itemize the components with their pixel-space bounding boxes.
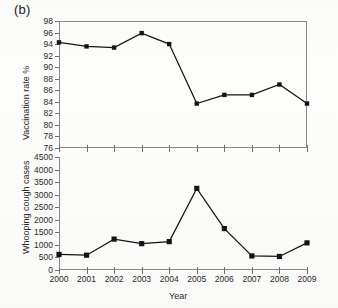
data-point-marker	[194, 186, 199, 191]
data-point-marker	[167, 239, 172, 244]
data-point-marker	[56, 252, 61, 257]
y-tick-label: 4500	[17, 153, 53, 162]
data-point-marker	[250, 93, 254, 97]
x-tick-label: 2008	[264, 275, 294, 284]
y-tick-label: 0	[17, 266, 53, 275]
y-tick-label: 3500	[17, 178, 53, 187]
data-point-marker	[277, 254, 282, 259]
series-line	[59, 188, 307, 256]
y-tick-label: 96	[17, 29, 53, 38]
whooping-cough-cases-series	[59, 157, 307, 270]
data-point-marker	[222, 93, 226, 97]
vaccination-rate-plot	[59, 21, 307, 148]
y-tick-label: 88	[17, 75, 53, 84]
data-point-marker	[277, 82, 281, 86]
data-point-marker	[112, 45, 116, 49]
data-point-marker	[222, 226, 227, 231]
y-tick-label: 4000	[17, 166, 53, 175]
x-tick-label: 2002	[99, 275, 129, 284]
x-axis-title: Year	[169, 292, 187, 301]
y-tick-label: 2000	[17, 216, 53, 225]
data-point-marker	[139, 241, 144, 246]
y-tick-label: 1000	[17, 241, 53, 250]
panel-label: (b)	[14, 2, 31, 17]
y-tick-label: 82	[17, 109, 53, 118]
data-point-marker	[305, 101, 309, 105]
x-tick-mark	[307, 145, 308, 152]
data-point-marker	[112, 237, 117, 242]
y-tick-label: 1500	[17, 228, 53, 237]
whooping-cough-cases-plot	[59, 157, 307, 270]
data-point-marker	[167, 42, 171, 46]
x-tick-label: 2006	[209, 275, 239, 284]
series-line	[59, 33, 307, 103]
y-tick-label: 98	[17, 17, 53, 26]
x-tick-label: 2003	[127, 275, 157, 284]
x-tick-label: 2009	[292, 275, 322, 284]
y-tick-label: 92	[17, 52, 53, 61]
data-point-marker	[84, 44, 88, 48]
data-point-marker	[139, 31, 143, 35]
data-point-marker	[304, 240, 309, 245]
x-tick-label: 2007	[237, 275, 267, 284]
y-tick-label: 500	[17, 253, 53, 262]
x-tick-label: 2004	[154, 275, 184, 284]
y-tick-label: 84	[17, 98, 53, 107]
figure-panel-b: (b) Vaccination rate % 98969492908886848…	[0, 0, 338, 308]
y-tick-label: 3000	[17, 191, 53, 200]
y-tick-label: 2500	[17, 203, 53, 212]
y-tick-label: 86	[17, 86, 53, 95]
y-tick-label: 78	[17, 132, 53, 141]
data-point-marker	[195, 101, 199, 105]
data-point-marker	[57, 40, 61, 44]
x-tick-label: 2000	[44, 275, 74, 284]
data-point-marker	[84, 253, 89, 258]
vaccination-rate-series	[59, 21, 307, 148]
x-tick-label: 2001	[72, 275, 102, 284]
y-tick-label: 94	[17, 40, 53, 49]
y-tick-label: 90	[17, 63, 53, 72]
x-tick-mark	[307, 267, 308, 274]
data-point-marker	[249, 253, 254, 258]
y-tick-label: 80	[17, 121, 53, 130]
x-tick-label: 2005	[182, 275, 212, 284]
